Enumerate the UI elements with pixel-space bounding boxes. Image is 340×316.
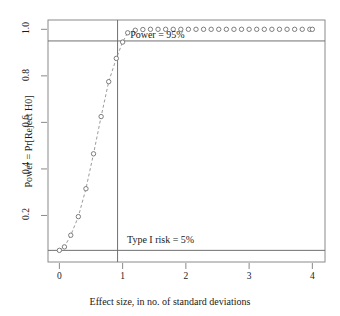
power-curve-figure: Effect size, in no. of standard deviatio…	[0, 0, 340, 316]
data-point-marker	[69, 233, 73, 237]
data-point-marker	[99, 114, 103, 118]
annotation-power-line: Power = 95%	[97, 29, 217, 40]
data-point-marker	[232, 27, 236, 31]
data-point-marker	[310, 27, 314, 31]
annotation-alpha-line: Type I risk = 5%	[101, 234, 221, 245]
data-point-marker	[292, 27, 296, 31]
reference-lines	[48, 20, 325, 262]
data-point-markers	[57, 27, 314, 252]
x-tick-label: 0	[47, 271, 71, 281]
x-tick-label: 4	[300, 271, 324, 281]
data-point-marker	[239, 27, 243, 31]
data-point-marker	[300, 27, 304, 31]
y-tick-label: 0.6	[21, 108, 31, 134]
x-tick-label: 3	[237, 271, 261, 281]
x-axis-ticks	[59, 263, 312, 269]
x-tick-label: 2	[174, 271, 198, 281]
data-point-marker	[270, 27, 274, 31]
data-point-marker	[224, 27, 228, 31]
y-tick-label: 0.8	[21, 62, 31, 88]
x-tick-label: 1	[111, 271, 135, 281]
y-axis-ticks	[41, 29, 47, 215]
data-point-marker	[254, 27, 258, 31]
data-point-marker	[114, 56, 118, 60]
data-point-marker	[91, 152, 95, 156]
data-point-marker	[62, 245, 66, 249]
y-tick-label: 1.0	[21, 15, 31, 41]
data-point-marker	[120, 40, 124, 44]
data-point-marker	[277, 27, 281, 31]
data-point-marker	[262, 27, 266, 31]
y-tick-label: 0.4	[21, 155, 31, 181]
data-point-marker	[57, 248, 61, 252]
plot-canvas	[0, 0, 340, 316]
x-axis-title: Effect size, in no. of standard deviatio…	[0, 296, 340, 307]
data-point-marker	[84, 187, 88, 191]
data-point-marker	[76, 214, 80, 218]
data-point-marker	[107, 79, 111, 83]
y-tick-label: 0.2	[21, 201, 31, 227]
plot-frame	[48, 20, 325, 262]
data-point-marker	[285, 27, 289, 31]
data-point-marker	[247, 27, 251, 31]
